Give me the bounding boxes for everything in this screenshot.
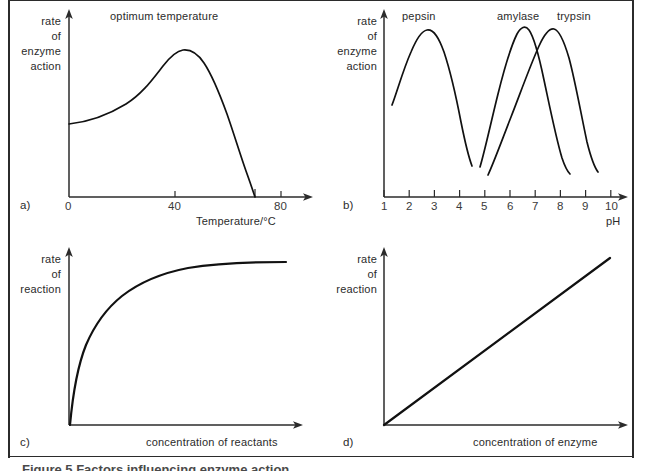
panel-a-panel-label: a) — [20, 199, 31, 213]
panel-b-xtick-label-4: 4 — [456, 200, 463, 214]
panel-b-panel-label: b) — [343, 199, 354, 213]
panel-b-y-axis-label: rate of enzyme action — [325, 14, 377, 74]
panel-b-ylabel-line-4: action — [325, 59, 377, 74]
panel-b-xtick-label-10: 10 — [605, 200, 618, 214]
panel-a-y-axis-label: rate of enzyme action — [6, 14, 61, 74]
panel-b-ylabel-line-3: enzyme — [325, 44, 377, 59]
panel-d: rate of reaction concentration of enzyme… — [325, 232, 650, 456]
panel-a-xtick-label-0: 0 — [65, 200, 72, 214]
panel-a-x-axis-label: Temperature/°C — [196, 215, 276, 229]
panel-b-curve-label-pepsin: pepsin — [402, 10, 436, 24]
panel-a-ylabel-line-1: rate — [6, 14, 61, 29]
panel-c-y-axis-label: rate of reaction — [6, 252, 61, 297]
panel-b: rate of enzyme action pepsin amylase try… — [325, 0, 650, 232]
panel-c-ylabel-line-3: reaction — [6, 282, 61, 297]
panel-b-xtick-label-1: 1 — [381, 200, 388, 214]
panel-d-curve-reaction-rate — [384, 258, 610, 425]
figure-caption: Figure 5 Factors influencing enzyme acti… — [22, 462, 289, 471]
panel-a-xtick-label-80: 80 — [274, 200, 287, 214]
panel-c-panel-label: c) — [20, 436, 30, 450]
panel-a: rate of enzyme action optimum temperatur… — [0, 0, 325, 232]
figure-border-bottom — [8, 456, 634, 457]
panel-b-xtick-label-8: 8 — [557, 200, 564, 214]
panel-b-xtick-label-3: 3 — [431, 200, 438, 214]
panel-b-curve-amylase — [480, 27, 570, 174]
panel-a-annotation-optimum-temperature: optimum temperature — [110, 10, 218, 24]
panel-b-curve-label-trypsin: trypsin — [557, 10, 591, 24]
panel-b-xtick-label-9: 9 — [582, 200, 589, 214]
panel-b-xtick-label-6: 6 — [507, 200, 514, 214]
panel-c-x-axis-label: concentration of reactants — [146, 436, 278, 450]
panel-b-curve-label-amylase: amylase — [497, 10, 539, 24]
panel-c-ylabel-line-1: rate — [6, 252, 61, 267]
panel-d-panel-label: d) — [343, 436, 354, 450]
panel-d-ylabel-line-3: reaction — [325, 282, 377, 297]
panel-d-ylabel-line-1: rate — [325, 252, 377, 267]
panel-c-curve-reaction-rate — [70, 262, 286, 425]
panel-c-ylabel-line-2: of — [6, 267, 61, 282]
panel-b-xtick-label-5: 5 — [481, 200, 488, 214]
panel-d-x-axis-label: concentration of enzyme — [473, 436, 597, 450]
panel-b-x-axis-label: pH — [606, 215, 620, 229]
panel-b-ylabel-line-1: rate — [325, 14, 377, 29]
panel-a-xtick-label-40: 40 — [168, 200, 181, 214]
panel-a-curve-enzyme-rate — [69, 50, 255, 197]
panel-b-xtick-label-7: 7 — [532, 200, 539, 214]
panel-d-y-axis-label: rate of reaction — [325, 252, 377, 297]
panel-a-ylabel-line-2: of — [6, 29, 61, 44]
panel-b-ylabel-line-2: of — [325, 29, 377, 44]
panel-b-curve-pepsin — [392, 30, 472, 166]
panel-d-ylabel-line-2: of — [325, 267, 377, 282]
figure-root: rate of enzyme action optimum temperatur… — [0, 0, 650, 471]
panel-b-curve-trypsin — [488, 29, 598, 175]
panel-c: rate of reaction concentration of reacta… — [0, 232, 325, 456]
panel-b-xtick-label-2: 2 — [406, 200, 413, 214]
panel-a-ylabel-line-4: action — [6, 59, 61, 74]
panel-a-ylabel-line-3: enzyme — [6, 44, 61, 59]
